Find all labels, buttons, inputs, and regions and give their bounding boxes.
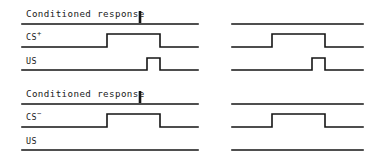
waveform-traces <box>0 0 374 161</box>
panel-cs-plus-right-cs-trace <box>232 34 363 47</box>
panel-cs-plus-left-cr-label: Conditioned response <box>26 9 145 18</box>
panel-cs-plus-right-us-trace <box>232 58 363 70</box>
conditioning-timing-figure: Conditioned responseCS+USConditioned res… <box>0 0 374 161</box>
panel-cs-plus-left-us-trace <box>22 58 198 70</box>
panel-cs-plus-left-us-label: US <box>26 57 37 65</box>
panel-cs-plus-left-cs-label: CS+ <box>26 33 41 41</box>
panel-cs-minus-left-cr-label: Conditioned response <box>26 89 145 98</box>
panel-cs-minus-left-us-label: US <box>26 137 37 145</box>
panel-cs-plus-left-cs-label-superscript: + <box>37 29 41 38</box>
panel-cs-minus-right-cs-trace <box>232 114 363 127</box>
panel-cs-minus-left-cs-label-superscript: − <box>37 109 41 118</box>
panel-cs-plus-left-cs-trace <box>22 34 198 47</box>
panel-cs-minus-left-cs-trace <box>22 114 198 127</box>
panel-cs-minus-left-cs-label: CS− <box>26 113 41 121</box>
